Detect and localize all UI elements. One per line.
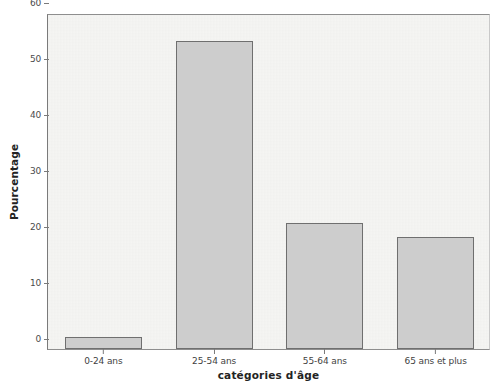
- bar: [286, 223, 363, 349]
- y-axis-tick-mark: [44, 227, 49, 228]
- y-axis-tick-label: 10: [30, 278, 41, 288]
- y-axis-tick: 40: [30, 110, 48, 120]
- x-axis-tick: 65 ans et plus: [405, 349, 467, 366]
- y-axis-tick: 50: [30, 54, 48, 64]
- y-axis-tick-mark: [44, 3, 49, 4]
- x-axis-tick-mark: [435, 349, 436, 354]
- bar: [397, 237, 474, 349]
- y-axis-tick-label: 40: [30, 110, 41, 120]
- x-axis-tick: 25-54 ans: [192, 349, 236, 366]
- y-axis-tick-mark: [44, 59, 49, 60]
- x-axis-title: catégories d'âge: [47, 369, 490, 381]
- y-axis-tick: 20: [30, 222, 48, 232]
- y-axis-tick: 30: [30, 166, 48, 176]
- y-axis-tick-label: 20: [30, 222, 41, 232]
- y-axis-tick: 0: [35, 334, 48, 344]
- bar-chart-figure: Pourcentage 0102030405060 0-24 ans25-54 …: [0, 0, 494, 388]
- y-axis-tick: 60: [30, 0, 48, 8]
- y-axis-tick-label: 0: [35, 334, 41, 344]
- x-axis-tick-mark: [214, 349, 215, 354]
- x-axis-tick: 0-24 ans: [84, 349, 122, 366]
- y-axis-title-label: Pourcentage: [8, 144, 20, 220]
- x-axis-tick-mark: [324, 349, 325, 354]
- y-axis-tick-mark: [44, 283, 49, 284]
- x-axis-tick-label: 55-64 ans: [303, 356, 347, 366]
- y-axis-tick-label: 50: [30, 54, 41, 64]
- x-axis-tick: 55-64 ans: [303, 349, 347, 366]
- x-axis-tick-label: 0-24 ans: [84, 356, 122, 366]
- y-axis-tick: 10: [30, 278, 48, 288]
- bar: [65, 337, 142, 349]
- y-axis-title: Pourcentage: [6, 14, 22, 350]
- bar: [176, 41, 253, 349]
- x-axis-tick-label: 25-54 ans: [192, 356, 236, 366]
- x-axis-tick-mark: [103, 349, 104, 354]
- y-axis-tick-mark: [44, 115, 49, 116]
- plot-area: 0102030405060 0-24 ans25-54 ans55-64 ans…: [47, 14, 490, 350]
- y-axis-tick-mark: [44, 171, 49, 172]
- x-axis-tick-label: 65 ans et plus: [405, 356, 467, 366]
- y-axis-tick-mark: [44, 339, 49, 340]
- y-axis-tick-label: 60: [30, 0, 41, 8]
- y-axis-tick-label: 30: [30, 166, 41, 176]
